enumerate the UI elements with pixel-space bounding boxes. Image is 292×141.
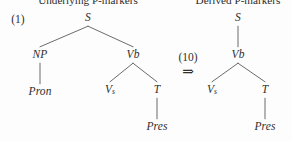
tree-node-derived-p-marker-vs: Vs	[207, 84, 217, 96]
node-subscript: s	[214, 87, 217, 96]
tree-edge-derived-p-marker-vb-vs	[212, 63, 238, 82]
node-label: Vb	[127, 48, 140, 60]
node-label: T	[262, 83, 269, 95]
tree-node-underlying-p-marker-s: S	[85, 12, 91, 24]
node-label: S	[85, 11, 91, 23]
equation-number-label: (1)	[11, 14, 24, 26]
tree-node-derived-p-marker-s: S	[235, 12, 241, 24]
syntax-tree-figure: Underlying P-markers Derived P-markers (…	[0, 0, 292, 141]
node-label: Pres	[146, 120, 167, 132]
tree-edge-derived-p-marker-vb-t	[238, 63, 265, 82]
header-underlying-p-markers: Underlying P-markers	[38, 0, 138, 6]
double-arrow-icon: ⇒	[182, 65, 194, 79]
tree-node-derived-p-marker-vb: Vb	[232, 49, 245, 61]
tree-node-underlying-p-marker-vs: Vs	[105, 84, 115, 96]
tree-node-underlying-p-marker-pres: Pres	[146, 121, 167, 133]
node-label: Pres	[254, 120, 275, 132]
header-derived-p-markers: Derived P-markers	[196, 0, 281, 6]
tree-edge-underlying-p-marker-vb-vs	[110, 63, 133, 82]
rule-number-label: (10)	[178, 52, 197, 64]
tree-edge-underlying-p-marker-s-vb	[88, 26, 133, 47]
tree-node-underlying-p-marker-t: T	[154, 84, 161, 96]
tree-node-underlying-p-marker-vb: Vb	[127, 49, 140, 61]
node-label: Vb	[232, 48, 245, 60]
tree-edge-underlying-p-marker-vb-t	[133, 63, 157, 82]
node-subscript: s	[112, 87, 115, 96]
tree-edge-group	[40, 26, 265, 119]
node-label: Pron	[29, 85, 52, 97]
tree-node-underlying-p-marker-pron: Pron	[29, 86, 52, 98]
node-label: S	[235, 11, 241, 23]
tree-node-derived-p-marker-pres: Pres	[254, 121, 275, 133]
node-label: NP	[33, 48, 48, 60]
tree-node-derived-p-marker-t: T	[262, 84, 269, 96]
node-label: T	[154, 83, 161, 95]
tree-node-underlying-p-marker-np: NP	[33, 49, 48, 61]
tree-edge-underlying-p-marker-s-np	[40, 26, 88, 47]
